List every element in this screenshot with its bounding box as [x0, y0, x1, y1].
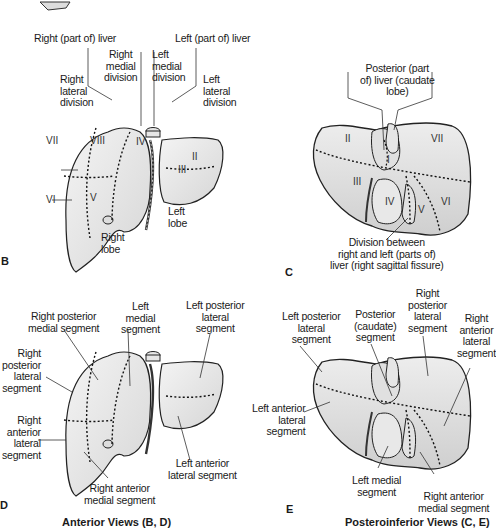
segment-I-c: I	[387, 154, 390, 165]
label-left-part-of-liver: Left (part of) liver	[175, 33, 250, 45]
label-right-posterior-lateral-segment-e: Right posterior lateral segment	[408, 288, 447, 334]
label-right-lobe: Right lobe	[101, 232, 125, 255]
caption-posteroinferior-views: Posteroinferior Views (C, E)	[345, 516, 490, 528]
cropped-fragment-icon	[40, 2, 70, 10]
label-left-anterior-lateral-segment-e: Left anterior lateral segment	[252, 403, 305, 438]
segment-VI-b: VI	[46, 194, 55, 205]
label-right-sagittal-fissure: Division between right and left (parts o…	[330, 237, 444, 272]
segment-VI-c: VI	[441, 196, 450, 207]
liver-anterior-b	[64, 128, 223, 273]
panel-letter-d: D	[0, 499, 8, 511]
label-left-posterior-lateral-segment-d: Left posterior lateral segment	[186, 300, 244, 335]
liver-posteroinferior-e	[313, 357, 470, 469]
label-right-lateral-division: Right lateral division	[60, 74, 93, 109]
segment-V-c: V	[418, 204, 425, 215]
label-right-part-of-liver: Right (part of) liver	[34, 33, 116, 45]
segment-III-b: III	[178, 164, 186, 175]
label-left-posterior-lateral-segment-e: Left posterior lateral segment	[282, 311, 340, 346]
segment-V-b: V	[90, 192, 97, 203]
label-posterior-caudate-segment: Posterior (caudate) segment	[354, 309, 397, 344]
label-left-anterior-lateral-segment-d: Left anterior lateral segment	[168, 458, 237, 481]
label-right-posterior-medial-segment: Right posterior medial segment	[28, 311, 99, 334]
label-left-medial-segment-e: Left medial segment	[352, 475, 401, 498]
label-right-posterior-lateral-segment-d: Right posterior lateral segment	[2, 348, 41, 394]
segment-II-c: II	[345, 133, 351, 144]
label-left-lateral-division: Left lateral division	[203, 74, 236, 109]
caption-anterior-views: Anterior Views (B, D)	[62, 516, 171, 528]
panel-letter-b: B	[1, 255, 9, 267]
segment-VII-b: VII	[46, 135, 58, 146]
segment-II-b: II	[192, 151, 198, 162]
label-right-anterior-medial-segment-e: Right anterior medial segment	[418, 491, 489, 514]
label-left-lobe: Left lobe	[168, 206, 187, 229]
label-right-anterior-lateral-segment-d: Right anterior lateral segment	[2, 415, 41, 461]
label-right-medial-division: Right medial division	[104, 49, 137, 84]
liver-posteroinferior-c	[313, 123, 470, 235]
label-right-anterior-medial-segment-d: Right anterior medial segment	[84, 483, 155, 506]
label-left-medial-division: Left medial division	[152, 49, 185, 84]
panel-letter-e: E	[286, 503, 293, 515]
segment-III-c: III	[353, 176, 361, 187]
segment-VIII-b: VIII	[90, 135, 105, 146]
segment-IV-b: IV	[136, 136, 145, 147]
segment-VII-c: VII	[431, 133, 443, 144]
label-left-medial-segment-d: Left medial segment	[121, 301, 160, 336]
panel-letter-c: C	[285, 266, 293, 278]
label-posterior-caudate-lobe: Posterior (part of) liver (caudate lobe)	[360, 63, 435, 98]
segment-IV-c: IV	[385, 196, 394, 207]
label-right-anterior-lateral-segment-e: Right anterior lateral segment	[457, 313, 496, 359]
